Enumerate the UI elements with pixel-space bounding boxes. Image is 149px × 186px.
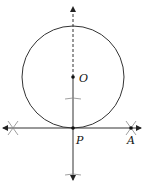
point-P	[71, 126, 75, 130]
label-O: O	[79, 72, 88, 85]
construction-diagram: O P A	[0, 0, 149, 186]
point-A	[129, 126, 133, 130]
label-A: A	[126, 134, 135, 147]
label-P: P	[75, 134, 84, 147]
point-O	[71, 75, 75, 79]
